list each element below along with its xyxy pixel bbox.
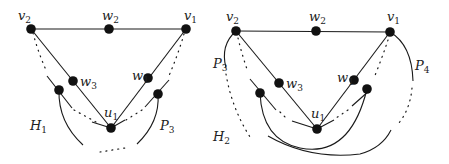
dotted-outer-left (226, 74, 252, 140)
vertex-w2-right (311, 26, 321, 36)
arc-bottom-outer (268, 130, 391, 155)
vertex-right-extra-right (362, 84, 372, 94)
graph-figure: v2 w2 v1 w3 w1 u1 H1 P3 (0, 0, 449, 164)
label-v2: v2 (18, 8, 31, 25)
right-graph: v2 w2 v1 w3 w1 u1 P3 P4 H2 (212, 9, 430, 155)
arc-h1 (59, 90, 83, 145)
arc-p3 (137, 94, 158, 144)
vertex-v1-right (385, 27, 395, 37)
vertex-w3-right (274, 78, 284, 88)
vertex-v2-right (231, 26, 241, 36)
label-w2: w2 (102, 8, 119, 25)
label-w2-right: w2 (309, 9, 326, 26)
vertex-v1 (181, 24, 191, 34)
vertex-left-extra (54, 85, 64, 95)
label-v1-right: v1 (387, 9, 400, 26)
dotted-right-u1-right (336, 110, 348, 118)
label-h2: H2 (212, 129, 230, 146)
label-u1: u1 (104, 105, 118, 122)
vertex-v2 (26, 24, 36, 34)
dotted-path-v2 (33, 33, 46, 70)
label-p3-left: P3 (159, 118, 175, 135)
label-h1: H1 (29, 118, 47, 135)
vertex-u1-right (312, 124, 322, 134)
label-p3-right: P3 (212, 56, 228, 73)
label-p4: P4 (414, 58, 430, 75)
vertex-left-extra-right (255, 88, 265, 98)
arc-p4 (390, 32, 413, 81)
vertex-w2 (104, 24, 114, 34)
figure-svg: v2 w2 v1 w3 w1 u1 H1 P3 (0, 0, 449, 164)
vertex-right-extra (153, 89, 163, 99)
label-w1: w1 (132, 68, 149, 85)
vertex-w3 (68, 76, 78, 86)
label-w3-right: w3 (286, 76, 303, 93)
dotted-path-v1 (168, 34, 184, 78)
dotted-left-u1-right (280, 112, 288, 120)
vertex-u1 (106, 123, 116, 133)
left-graph: v2 w2 v1 w3 w1 u1 H1 P3 (18, 8, 197, 152)
dotted-path-v1-right (374, 40, 388, 78)
dotted-left-to-u1 (74, 110, 96, 122)
dotted-bottom (100, 148, 125, 152)
label-v2-right: v2 (226, 9, 239, 26)
dotted-outer-right (398, 88, 412, 124)
label-v1: v1 (184, 8, 197, 25)
label-w3: w3 (80, 74, 97, 91)
dotted-right-to-u1 (126, 110, 142, 120)
label-u1-right: u1 (311, 106, 325, 123)
label-w1-right: w1 (337, 70, 354, 87)
